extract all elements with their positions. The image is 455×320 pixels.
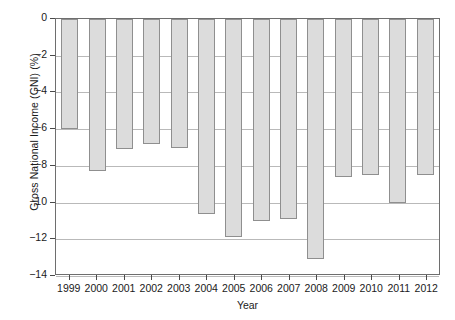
bar-slot — [83, 19, 110, 274]
y-tick-mark — [50, 275, 55, 276]
y-tick-label: −2 — [7, 48, 47, 60]
bar-chart: Gross National Income (GNI) (%) 0−2−4−6−… — [0, 0, 455, 320]
bar-slot — [111, 19, 138, 274]
y-tick-mark — [50, 18, 55, 19]
bar[interactable] — [116, 19, 133, 149]
y-tick-mark — [50, 128, 55, 129]
y-tick-label: −14 — [7, 268, 47, 280]
bar-slot — [330, 19, 357, 274]
plot-area — [55, 18, 440, 275]
x-tick-mark — [344, 275, 345, 280]
x-tick-mark — [69, 275, 70, 280]
bar-series — [56, 19, 439, 274]
bar[interactable] — [61, 19, 78, 129]
bar-slot — [138, 19, 165, 274]
bar-slot — [357, 19, 384, 274]
y-tick-label: −4 — [7, 84, 47, 96]
y-tick-label: −12 — [7, 231, 47, 243]
bar-slot — [412, 19, 439, 274]
x-tick-label: 2012 — [404, 282, 448, 294]
bar[interactable] — [389, 19, 406, 203]
bar-slot — [248, 19, 275, 274]
x-tick-mark — [206, 275, 207, 280]
bar[interactable] — [362, 19, 379, 175]
x-tick-mark — [289, 275, 290, 280]
x-tick-mark — [426, 275, 427, 280]
x-tick-mark — [124, 275, 125, 280]
y-tick-mark — [50, 238, 55, 239]
bar-slot — [56, 19, 83, 274]
bar[interactable] — [280, 19, 297, 219]
x-tick-mark — [399, 275, 400, 280]
x-axis-title: Year — [55, 299, 440, 311]
bar[interactable] — [171, 19, 188, 148]
x-tick-mark — [261, 275, 262, 280]
x-tick-mark — [234, 275, 235, 280]
x-tick-mark — [316, 275, 317, 280]
x-tick-mark — [151, 275, 152, 280]
bar-slot — [165, 19, 192, 274]
bar[interactable] — [143, 19, 160, 144]
bar[interactable] — [253, 19, 270, 221]
bar-slot — [384, 19, 411, 274]
y-tick-mark — [50, 91, 55, 92]
bar[interactable] — [335, 19, 352, 177]
bar-slot — [220, 19, 247, 274]
x-tick-mark — [371, 275, 372, 280]
bar[interactable] — [417, 19, 434, 175]
bar-slot — [302, 19, 329, 274]
y-tick-label: −8 — [7, 158, 47, 170]
x-tick-mark — [179, 275, 180, 280]
y-tick-label: 0 — [7, 11, 47, 23]
bar[interactable] — [307, 19, 324, 259]
bar-slot — [275, 19, 302, 274]
bar[interactable] — [89, 19, 106, 171]
bar[interactable] — [198, 19, 215, 214]
x-tick-mark — [96, 275, 97, 280]
y-tick-mark — [50, 55, 55, 56]
bar[interactable] — [225, 19, 242, 237]
y-tick-label: −10 — [7, 195, 47, 207]
gridline — [56, 276, 439, 277]
bar-slot — [193, 19, 220, 274]
y-tick-mark — [50, 202, 55, 203]
y-tick-label: −6 — [7, 121, 47, 133]
y-tick-mark — [50, 165, 55, 166]
